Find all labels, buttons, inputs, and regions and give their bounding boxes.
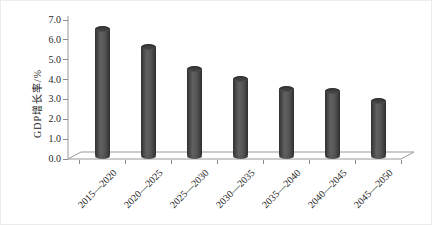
y-tick-label: 7.0 — [29, 14, 61, 26]
bar — [279, 89, 294, 155]
bar — [187, 69, 202, 155]
bar-top-ellipse — [279, 86, 294, 92]
y-tick — [63, 59, 68, 60]
chart-figure: GDP增长率/% 0.01.02.03.04.05.06.07.02015—20… — [0, 0, 432, 225]
y-tick-label: 0.0 — [29, 153, 61, 165]
y-tick-label: 6.0 — [29, 34, 61, 46]
bar — [141, 47, 156, 155]
x-tick — [217, 160, 218, 164]
x-tick — [79, 160, 80, 164]
x-tick — [125, 160, 126, 164]
y-tick — [63, 99, 68, 100]
x-tick — [263, 160, 264, 164]
y-tick-label: 2.0 — [29, 113, 61, 125]
y-tick — [63, 79, 68, 80]
bar — [95, 29, 110, 155]
bar-top-ellipse — [233, 76, 248, 82]
y-tick — [63, 119, 68, 120]
y-tick-label: 3.0 — [29, 93, 61, 105]
bar — [325, 91, 340, 156]
y-tick — [63, 39, 68, 40]
x-tick — [401, 160, 402, 164]
bar-top-ellipse — [187, 66, 202, 72]
bar — [233, 79, 248, 155]
y-tick-label: 1.0 — [29, 133, 61, 145]
bar-top-ellipse — [371, 98, 386, 104]
x-tick — [171, 160, 172, 164]
bar-top-ellipse — [325, 88, 340, 94]
y-tick-label: 5.0 — [29, 54, 61, 66]
y-tick — [63, 139, 68, 140]
y-tick — [63, 20, 68, 21]
x-tick — [355, 160, 356, 164]
x-tick — [309, 160, 310, 164]
y-tick-label: 4.0 — [29, 74, 61, 86]
bar — [371, 101, 386, 156]
y-tick — [63, 159, 68, 160]
